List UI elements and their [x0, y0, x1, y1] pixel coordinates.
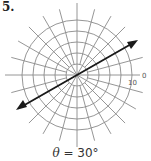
grid-spoke	[59, 86, 74, 141]
grid-spoke	[11, 57, 66, 72]
theta-symbol: θ	[52, 146, 59, 160]
grid-spoke	[80, 86, 95, 141]
arrowhead-icon	[16, 100, 27, 110]
polar-grid	[5, 3, 143, 147]
polar-grid-diagram: 0 10	[0, 0, 151, 150]
arrowhead-icon	[127, 40, 138, 49]
radius-ten-label: 10	[128, 79, 137, 87]
grid-spoke	[59, 9, 74, 64]
angle-zero-label: 0	[142, 72, 146, 80]
caption: θ = 30°	[0, 146, 151, 160]
caption-value: = 30°	[60, 146, 99, 160]
grid-spoke	[80, 9, 95, 64]
